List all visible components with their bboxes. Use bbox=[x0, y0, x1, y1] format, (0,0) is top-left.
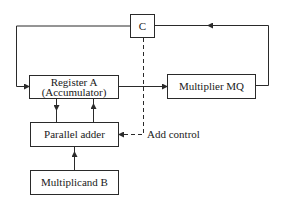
multiplier-mq-box: Multiplier MQ bbox=[167, 74, 256, 99]
register-a-box: Register A (Accumulator) bbox=[29, 75, 119, 99]
control-box-c: C bbox=[130, 14, 155, 38]
multiplicand-b-box: Multiplicand B bbox=[30, 170, 119, 195]
register-a-subtitle: (Accumulator) bbox=[42, 87, 107, 97]
parallel-adder-box: Parallel adder bbox=[30, 122, 119, 147]
multiplicand-b-label: Multiplicand B bbox=[41, 177, 108, 188]
parallel-adder-label: Parallel adder bbox=[44, 129, 105, 140]
control-label: C bbox=[139, 21, 146, 32]
add-control-label: Add control bbox=[147, 128, 200, 140]
multiplier-mq-label: Multiplier MQ bbox=[179, 81, 244, 92]
